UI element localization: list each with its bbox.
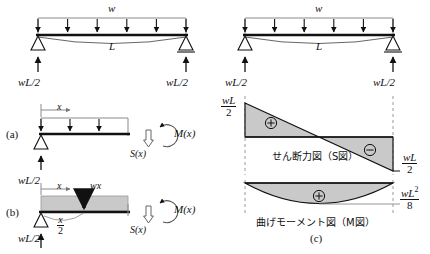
load-arrows — [38, 19, 186, 32]
support-pin-b — [34, 213, 48, 227]
moment-label-b: M(x) — [174, 203, 195, 215]
load-label-w-left: w — [108, 2, 115, 14]
shear-label-a: S(x) — [130, 148, 146, 159]
shear-right-den: 2 — [406, 164, 414, 175]
moment-diagram-caption: 曲げモーメント図（M図） — [256, 214, 375, 229]
resultant-label-wx: wx — [90, 180, 101, 191]
dimension-label-x-a: x — [57, 101, 61, 112]
centroid-leader-b — [44, 213, 84, 220]
load-arrows-right — [245, 19, 393, 32]
moment-peak-den: 8 — [406, 200, 414, 211]
support-pin-a — [34, 135, 48, 149]
reaction-label-right-copy: wL/2 — [373, 76, 395, 88]
panel-label-a: (a) — [6, 128, 18, 140]
moment-label-a: M(x) — [174, 127, 195, 139]
reaction-label-a: wL/2 — [18, 174, 40, 186]
load-label-w-right: w — [315, 2, 322, 14]
load-arrows-a — [41, 119, 99, 131]
panel-label-c: (c) — [310, 232, 322, 244]
shear-diagram-caption: せん断力図（S図） — [272, 148, 358, 163]
panel-label-b: (b) — [6, 206, 19, 218]
centroid-label-b: x2 — [57, 215, 64, 236]
reaction-label-left-copy: wL/2 — [225, 76, 247, 88]
reaction-label-b: wL/2 — [18, 232, 40, 244]
span-label-L-right: L — [316, 40, 322, 52]
dimension-label-x-b: x — [57, 180, 61, 191]
shear-left-value: wL2 — [221, 95, 236, 118]
moment-peak-exponent: 2 — [414, 185, 418, 194]
bending-moment-diagram — [245, 180, 400, 215]
moment-peak-num: wL2 — [400, 186, 419, 200]
shear-positive-area — [245, 103, 319, 137]
free-body-diagram-a — [34, 104, 178, 170]
moment-peak-value: wL28 — [400, 186, 419, 211]
shear-right-value: wL2 — [402, 152, 417, 175]
reaction-label-left: wL/2 — [18, 76, 40, 88]
shear-arrow-a — [144, 130, 154, 147]
shear-force-diagram — [245, 96, 400, 175]
span-label-L-left: L — [109, 40, 115, 52]
shear-label-b: S(x) — [130, 224, 146, 235]
centroid-den: 2 — [57, 226, 64, 236]
shear-arrow-b — [144, 206, 154, 223]
shear-left-den: 2 — [225, 107, 233, 118]
reaction-label-right: wL/2 — [166, 76, 188, 88]
free-body-diagram-b — [34, 183, 178, 248]
